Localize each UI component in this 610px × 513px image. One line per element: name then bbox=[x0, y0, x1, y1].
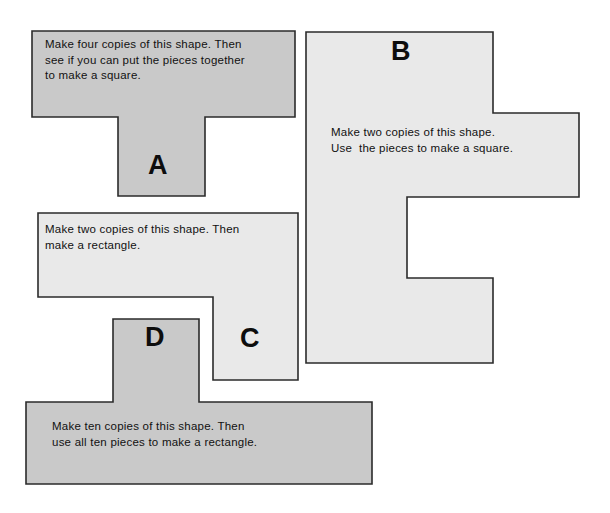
shape-c-instruction-line-1: Make two copies of this shape. Then bbox=[45, 223, 240, 235]
shape-a-instruction: Make four copies of this shape. Then see… bbox=[45, 37, 245, 84]
shape-b-instruction-line-2: Use the pieces to make a square. bbox=[331, 142, 513, 154]
shape-c-instruction: Make two copies of this shape. Then make… bbox=[45, 222, 240, 253]
shape-a-instruction-line-2: see if you can put the pieces together bbox=[45, 54, 245, 66]
worksheet-canvas: Make four copies of this shape. Then see… bbox=[0, 0, 610, 513]
shape-d-instruction-line-2: use all ten pieces to make a rectangle. bbox=[52, 436, 257, 448]
shape-b-polygon bbox=[306, 32, 579, 363]
shape-d-instruction-line-1: Make ten copies of this shape. Then bbox=[52, 420, 245, 432]
shape-b-label: B bbox=[391, 38, 411, 65]
shape-d-label: D bbox=[145, 324, 165, 351]
shape-a-instruction-line-1: Make four copies of this shape. Then bbox=[45, 38, 242, 50]
shape-c-label: C bbox=[240, 325, 260, 352]
shape-a-label: A bbox=[148, 152, 168, 179]
shape-d-instruction: Make ten copies of this shape. Then use … bbox=[52, 419, 257, 450]
shape-a-instruction-line-3: to make a square. bbox=[45, 69, 141, 81]
shape-c-instruction-line-2: make a rectangle. bbox=[45, 239, 140, 251]
shape-b-instruction-line-1: Make two copies of this shape. bbox=[331, 126, 495, 138]
shape-b-instruction: Make two copies of this shape. Use the p… bbox=[331, 125, 513, 156]
